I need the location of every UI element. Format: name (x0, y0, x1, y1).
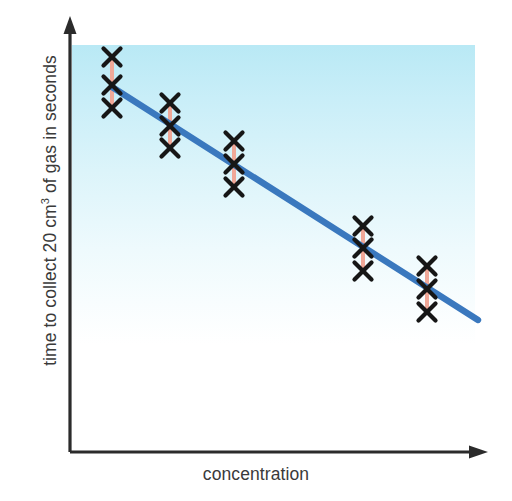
chart-canvas (0, 0, 512, 501)
y-axis-label-text-after: of gas in seconds (40, 55, 60, 198)
y-axis-label-superscript: 3 (39, 198, 51, 204)
y-axis-label-text-before: time to collect 20 cm (40, 204, 60, 366)
x-axis-label: concentration (0, 464, 512, 485)
y-axis-label: time to collect 20 cm3 of gas in seconds (40, 31, 61, 391)
chart-figure: time to collect 20 cm3 of gas in seconds… (0, 0, 512, 501)
x-axis (70, 446, 488, 459)
y-axis (64, 16, 77, 452)
